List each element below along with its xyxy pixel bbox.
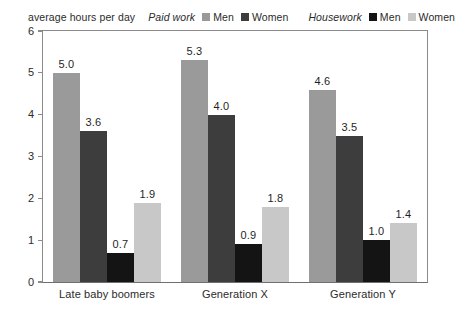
bar-value-label: 5.3 xyxy=(187,45,203,57)
bar-value-label: 4.6 xyxy=(315,75,331,87)
bar[interactable]: 5.0 xyxy=(53,73,80,282)
legend-label-housework-women: Women xyxy=(419,11,456,23)
x-axis-category-label: Late baby boomers xyxy=(59,288,155,300)
bar-group: 4.63.51.01.4 xyxy=(309,31,417,282)
bar[interactable]: 0.9 xyxy=(235,244,262,282)
axis-caption: average hours per day xyxy=(28,11,135,23)
y-axis-tick-label: 4 xyxy=(28,109,34,120)
chart-header: average hours per day Paid work Men Wome… xyxy=(28,9,440,25)
square-swatch-icon xyxy=(241,13,249,21)
bar[interactable]: 5.3 xyxy=(181,60,208,282)
legend-entry-housework-women[interactable]: Women xyxy=(408,11,456,23)
legend-entry-paid-work-men[interactable]: Men xyxy=(202,11,234,23)
bar[interactable]: 4.0 xyxy=(208,115,235,282)
x-axis-labels: Late baby boomersGeneration XGeneration … xyxy=(43,288,427,306)
y-axis-tick-label: 1 xyxy=(28,235,34,246)
y-axis-tick-label: 5 xyxy=(28,67,34,78)
bar[interactable]: 1.4 xyxy=(390,223,417,282)
bar[interactable]: 3.5 xyxy=(336,136,363,282)
legend-entry-paid-work-women[interactable]: Women xyxy=(241,11,289,23)
bar[interactable]: 1.8 xyxy=(262,207,289,282)
bar-value-label: 5.0 xyxy=(59,58,75,70)
y-axis-tick-label: 3 xyxy=(28,151,34,162)
bar[interactable]: 3.6 xyxy=(80,131,107,282)
legend-group-paid-work: Paid work Men Women xyxy=(148,11,295,23)
bar-value-label: 3.6 xyxy=(86,116,102,128)
y-axis-tick-label: 0 xyxy=(28,277,34,288)
bar-value-label: 1.8 xyxy=(268,192,284,204)
bar-value-label: 1.4 xyxy=(396,208,412,220)
y-axis-tick-label: 6 xyxy=(28,26,34,37)
square-swatch-icon xyxy=(408,13,416,21)
x-axis-category-label: Generation Y xyxy=(330,288,396,300)
bar-value-label: 1.9 xyxy=(140,188,156,200)
bar-value-label: 0.9 xyxy=(241,229,257,241)
legend-entry-housework-men[interactable]: Men xyxy=(369,11,401,23)
bars-layer: 5.03.60.71.95.34.00.91.84.63.51.01.4 xyxy=(43,31,427,282)
bar-value-label: 4.0 xyxy=(214,100,230,112)
bar-value-label: 1.0 xyxy=(369,225,385,237)
square-swatch-icon xyxy=(202,13,210,21)
legend-group-housework: Housework Men Women xyxy=(308,11,459,23)
bar-value-label: 3.5 xyxy=(342,121,358,133)
square-swatch-icon xyxy=(369,13,377,21)
x-axis-category-label: Generation X xyxy=(202,288,268,300)
legend-label-paid-work-women: Women xyxy=(252,11,289,23)
legend-label-paid-work-men: Men xyxy=(213,11,234,23)
legend-group-title-housework: Housework xyxy=(308,11,361,23)
bar[interactable]: 1.0 xyxy=(363,240,390,282)
legend-group-title-paid-work: Paid work xyxy=(148,11,195,23)
bar[interactable]: 1.9 xyxy=(134,203,161,282)
bar-value-label: 0.7 xyxy=(113,238,129,250)
bar[interactable]: 0.7 xyxy=(107,253,134,282)
bar-group: 5.03.60.71.9 xyxy=(53,31,161,282)
legend-label-housework-men: Men xyxy=(380,11,401,23)
bar[interactable]: 4.6 xyxy=(309,90,336,282)
y-axis-tick-label: 2 xyxy=(28,193,34,204)
y-axis: 0123456 xyxy=(0,30,42,283)
bar-group: 5.34.00.91.8 xyxy=(181,31,289,282)
